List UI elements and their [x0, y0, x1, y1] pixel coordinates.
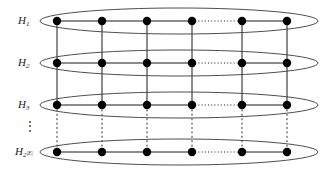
- node-H2E-1: [98, 148, 106, 156]
- node-H1-5: [283, 17, 291, 25]
- node-H2-4: [238, 59, 246, 67]
- node-H2-2: [143, 59, 151, 67]
- node-H2E-0: [53, 148, 61, 156]
- node-H1-0: [53, 17, 61, 25]
- layer-label-h2: H2: [18, 57, 29, 70]
- node-H3-2: [143, 101, 151, 109]
- node-H2E-3: [188, 148, 196, 156]
- node-H2-3: [188, 59, 196, 67]
- layer-label-h2e: H2|E|: [15, 146, 33, 159]
- layered-graph-figure: H1 H2 H3 H2|E| ⋮: [0, 0, 333, 171]
- diagram-canvas: [0, 0, 333, 171]
- layer-label-h1: H1: [18, 15, 29, 28]
- node-H2E-5: [283, 148, 291, 156]
- node-H2-1: [98, 59, 106, 67]
- layer-label-h3: H3: [18, 99, 29, 112]
- node-H2-0: [53, 59, 61, 67]
- node-H2E-4: [238, 148, 246, 156]
- node-H3-4: [238, 101, 246, 109]
- node-H3-5: [283, 101, 291, 109]
- vertical-ellipsis-icon: ⋮: [24, 120, 36, 132]
- node-H3-1: [98, 101, 106, 109]
- node-H1-4: [238, 17, 246, 25]
- node-H2-5: [283, 59, 291, 67]
- node-H2E-2: [143, 148, 151, 156]
- node-H3-0: [53, 101, 61, 109]
- node-H1-1: [98, 17, 106, 25]
- node-H3-3: [188, 101, 196, 109]
- node-H1-3: [188, 17, 196, 25]
- node-H1-2: [143, 17, 151, 25]
